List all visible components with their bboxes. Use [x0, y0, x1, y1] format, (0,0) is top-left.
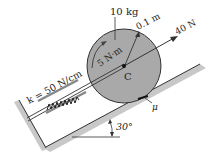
diagram-canvas: 10 kg 0.1 m 40 N 5 N·m C k = 50 N/cm μ 3…	[0, 0, 213, 161]
mass-label: 10 kg	[110, 6, 139, 17]
radius-label: 0.1 m	[134, 11, 162, 32]
center-point	[122, 64, 126, 68]
angle-label: 30°	[116, 121, 133, 132]
angle-arrowhead-bottom	[110, 132, 114, 137]
center-label: C	[124, 71, 132, 82]
spring-label: k = 50 N/cm	[25, 68, 84, 106]
friction-label: μ	[152, 102, 158, 112]
wall-shade	[14, 100, 47, 151]
force-label: 40 N	[173, 17, 197, 36]
wall-line	[19, 100, 46, 148]
